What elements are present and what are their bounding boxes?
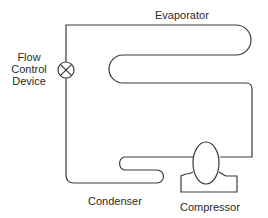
condenser-coil — [66, 78, 193, 183]
condenser-label: Condenser — [88, 195, 142, 207]
flow-control-device-label: Flow Control Device — [4, 51, 54, 87]
compressor-base — [181, 172, 237, 192]
compressor-body — [193, 142, 219, 184]
flow-label-line-2: Control — [4, 63, 54, 75]
evaporator-label: Evaporator — [155, 9, 209, 21]
compressor-label: Compressor — [180, 201, 240, 213]
refrigeration-cycle-diagram: Evaporator Flow Control Device Condenser… — [0, 0, 268, 218]
flow-label-line-1: Flow — [4, 51, 54, 63]
pipe-loop-drawing — [0, 0, 268, 218]
evaporator-coil — [66, 25, 252, 157]
flow-label-line-3: Device — [4, 75, 54, 87]
